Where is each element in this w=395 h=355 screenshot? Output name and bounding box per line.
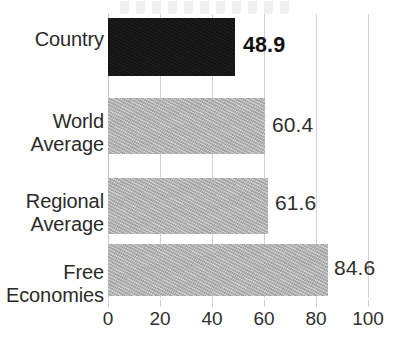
tick-label-40: 40 xyxy=(201,308,222,330)
bar-world-average xyxy=(108,98,265,154)
plot-area xyxy=(108,14,368,298)
value-label-free-economies: 84.6 xyxy=(334,256,375,280)
tick-label-100: 100 xyxy=(352,308,384,330)
tick-label-0: 0 xyxy=(103,308,114,330)
category-label-line: Regional xyxy=(0,190,104,213)
bar-free-economies xyxy=(108,244,328,296)
category-axis-labels: Country World Average Regional Average F… xyxy=(0,14,104,298)
bar-fill xyxy=(108,244,328,296)
tick-mark-60 xyxy=(264,300,265,307)
tick-label-80: 80 xyxy=(305,308,326,330)
value-label-country: 48.9 xyxy=(243,33,285,58)
tick-mark-40 xyxy=(212,300,213,307)
tick-mark-20 xyxy=(160,300,161,307)
bar-fill xyxy=(108,178,268,234)
bar-country xyxy=(108,18,235,76)
category-label-line: Average xyxy=(0,133,104,156)
tick-mark-0 xyxy=(108,300,109,307)
category-label-free-economies: Free Economies xyxy=(0,261,104,307)
category-label-line: Average xyxy=(0,213,104,236)
category-label-country: Country xyxy=(0,28,104,51)
category-label-line: Economies xyxy=(0,284,104,307)
value-label-world-average: 60.4 xyxy=(272,113,313,137)
tick-mark-80 xyxy=(316,300,317,307)
horizontal-bar-chart: Country World Average Regional Average F… xyxy=(0,0,395,355)
bar-fill xyxy=(108,98,265,154)
tick-label-60: 60 xyxy=(253,308,274,330)
tick-mark-100 xyxy=(368,300,369,307)
category-label-world-average: World Average xyxy=(0,110,104,156)
category-label-line: Country xyxy=(0,28,104,51)
bar-fill xyxy=(108,18,235,76)
tick-label-20: 20 xyxy=(149,308,170,330)
value-label-regional-average: 61.6 xyxy=(275,191,316,215)
category-label-line: Free xyxy=(0,261,104,284)
category-label-line: World xyxy=(0,110,104,133)
x-axis: 0 20 40 60 80 100 xyxy=(108,300,368,334)
bar-regional-average xyxy=(108,178,268,234)
category-label-regional-average: Regional Average xyxy=(0,190,104,236)
